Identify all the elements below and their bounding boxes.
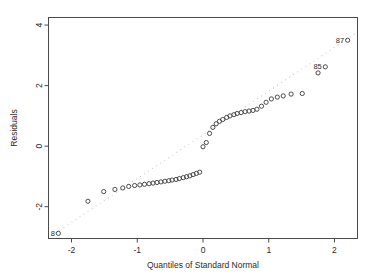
point-label: 87 (336, 36, 344, 45)
x-tick-label: -1 (133, 245, 141, 255)
x-tick-label: 0 (201, 245, 206, 255)
x-tick-label: 1 (266, 245, 271, 255)
x-tick-label: 2 (332, 245, 337, 255)
y-axis-title: Residuals (9, 109, 19, 146)
qq-plot-figure: -2-1012 -2024 87858 Quantiles of Standar… (0, 0, 373, 280)
y-tick-label: 2 (35, 83, 45, 88)
point-label: 85 (313, 62, 321, 71)
x-tick-label: -2 (68, 245, 76, 255)
x-axis-title: Quantiles of Standard Normal (147, 260, 259, 270)
y-tick-label: 0 (35, 144, 45, 149)
y-tick-label: -2 (35, 203, 45, 211)
point-label: 8 (51, 229, 55, 238)
qq-plot-canvas: -2-1012 -2024 87858 Quantiles of Standar… (0, 0, 373, 280)
y-tick-label: 4 (35, 22, 45, 27)
